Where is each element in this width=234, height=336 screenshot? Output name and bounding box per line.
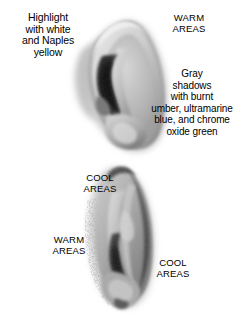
annotation-highlight-note: Highlight with white and Naples yellow [10,12,86,58]
annotation-warm-areas-lower-left: WARM AREAS [40,234,98,256]
annotation-cool-areas-upper-left: COOL AREAS [74,172,126,194]
illustration-page: Highlight with white and Naples yellow W… [0,0,234,336]
annotation-cool-areas-lower-right: COOL AREAS [146,257,200,279]
annotation-warm-areas-top: WARM AREAS [158,12,220,34]
annotation-gray-shadow-note: Gray shadows with burnt umber, ultramari… [150,68,234,137]
